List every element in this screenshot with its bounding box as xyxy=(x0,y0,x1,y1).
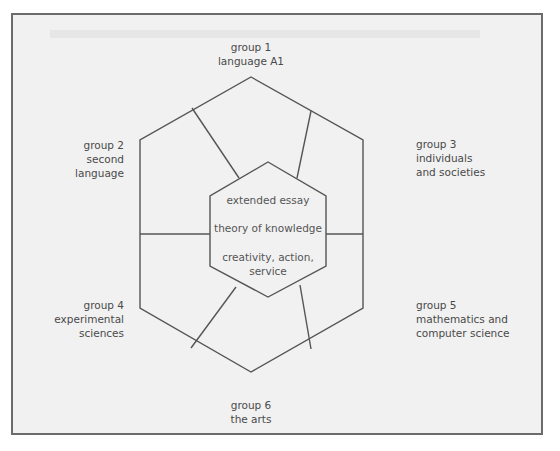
group-5-label: group 5 mathematics and computer science xyxy=(416,298,546,340)
group-subject: sciences xyxy=(28,326,124,340)
group-number: group 3 xyxy=(416,137,536,151)
group-subject: and societies xyxy=(416,165,536,179)
group-1-label: group 1 language A1 xyxy=(200,40,302,68)
group-3-label: group 3 individuals and societies xyxy=(416,137,536,179)
group-number: group 1 xyxy=(200,40,302,54)
core-theory-of-knowledge: theory of knowledge xyxy=(208,221,328,235)
spoke-upper-right xyxy=(297,111,311,178)
group-subject: experimental xyxy=(28,312,124,326)
core-cas-line2: service xyxy=(208,264,328,278)
group-subject: the arts xyxy=(200,412,302,426)
spoke-lower-left xyxy=(191,287,236,348)
group-subject: computer science xyxy=(416,326,546,340)
group-subject: mathematics and xyxy=(416,312,546,326)
group-subject: second xyxy=(40,152,124,166)
group-4-label: group 4 experimental sciences xyxy=(28,298,124,340)
group-number: group 2 xyxy=(40,138,124,152)
group-2-label: group 2 second language xyxy=(40,138,124,180)
group-subject: language xyxy=(40,166,124,180)
core-extended-essay: extended essay xyxy=(208,193,328,207)
group-number: group 4 xyxy=(28,298,124,312)
group-6-label: group 6 the arts xyxy=(200,398,302,426)
spoke-lower-right xyxy=(300,285,311,349)
group-subject: language A1 xyxy=(200,54,302,68)
core-cas-line1: creativity, action, xyxy=(208,250,328,264)
group-subject: individuals xyxy=(416,151,536,165)
group-number: group 5 xyxy=(416,298,546,312)
spoke-upper-left xyxy=(192,108,239,178)
group-number: group 6 xyxy=(200,398,302,412)
